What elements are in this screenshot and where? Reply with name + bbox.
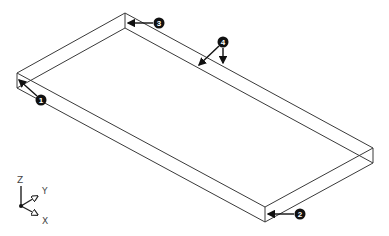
callout-number-2: 2 [298,210,303,219]
callout-3: 3 [128,18,165,29]
slab-diagram: 1 2 3 4 Z Y X [0,0,389,236]
bottom-face [17,28,373,222]
callout-1: 1 [19,80,47,106]
axis-triad-icon: Z Y X [17,175,48,226]
callout-number-1: 1 [39,96,44,105]
x-axis-arrow [21,206,36,214]
z-axis-label: Z [17,175,23,185]
x-axis-label: X [42,216,48,226]
callout-4: 4 [199,37,229,66]
y-axis-label: Y [41,186,48,196]
callout-number-4: 4 [221,38,226,47]
top-face [17,13,373,207]
y-axis-arrow [21,197,36,206]
slab-wireframe [17,13,373,222]
callout-number-3: 3 [157,19,162,28]
axis-origin-dot [19,204,23,208]
